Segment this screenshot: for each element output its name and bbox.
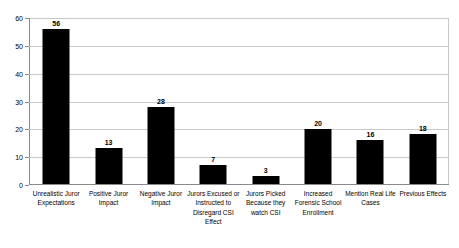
bar-slot: 56 — [30, 18, 82, 184]
bar-value-label: 16 — [367, 131, 375, 138]
bar-slot: 18 — [397, 18, 449, 184]
bar[interactable] — [357, 140, 384, 184]
x-axis-category-label: Positive Juror Impact — [82, 189, 134, 208]
x-axis-category-label: Negative Juror Impact — [135, 189, 187, 208]
bars-group: 56132873201618 — [30, 18, 449, 184]
bar-slot: 13 — [82, 18, 134, 184]
x-axis-category-label: Mention Real Life Cases — [344, 189, 396, 208]
x-axis-category-label: Jurors Excused or Instructed to Disregar… — [187, 189, 239, 227]
bar-value-label: 18 — [419, 125, 427, 132]
bar-slot: 7 — [187, 18, 239, 184]
bar-slot: 3 — [240, 18, 292, 184]
bar[interactable] — [147, 107, 174, 184]
x-axis-category-label: Unrealistic Juror Expectations — [30, 189, 82, 208]
x-axis-category-labels: Unrealistic Juror ExpectationsPositive J… — [30, 189, 450, 247]
y-axis-tick-label: 30 — [15, 98, 23, 105]
y-axis-tick-mark — [25, 129, 29, 130]
bar[interactable] — [43, 29, 70, 184]
x-axis-category-label: Previous Effects — [397, 189, 449, 198]
y-axis-tick-mark — [25, 74, 29, 75]
bar[interactable] — [305, 129, 332, 184]
bar-value-label: 56 — [52, 20, 60, 27]
bar[interactable] — [95, 148, 122, 184]
y-axis-tick-label: 40 — [15, 70, 23, 77]
bar-slot: 16 — [344, 18, 396, 184]
y-axis-tick-label: 60 — [15, 15, 23, 22]
bar-value-label: 20 — [314, 120, 322, 127]
y-axis-tick-mark — [25, 157, 29, 158]
bar-chart: 0102030405060 56132873201618 Unrealistic… — [0, 0, 459, 248]
bar[interactable] — [200, 165, 227, 184]
bar[interactable] — [252, 176, 279, 184]
bar-slot: 20 — [292, 18, 344, 184]
bar-value-label: 3 — [264, 167, 268, 174]
y-axis-tick-label: 20 — [15, 126, 23, 133]
bar-slot: 28 — [135, 18, 187, 184]
y-axis-tick-label: 50 — [15, 42, 23, 49]
y-axis-tick-label: 0 — [19, 182, 23, 189]
y-axis-tick-mark — [25, 46, 29, 47]
x-axis-line — [29, 184, 449, 185]
bar-value-label: 28 — [157, 98, 165, 105]
bar-value-label: 7 — [211, 156, 215, 163]
bar[interactable] — [409, 134, 436, 184]
plot-frame: 0102030405060 56132873201618 — [29, 18, 449, 185]
bar-value-label: 13 — [105, 139, 113, 146]
x-axis-category-label: Jurors Picked Because they watch CSI — [240, 189, 292, 217]
y-axis-tick-mark — [25, 185, 29, 186]
y-axis-tick-label: 10 — [15, 154, 23, 161]
x-axis-category-label: Increased Forensic School Enrollment — [292, 189, 344, 217]
y-axis-tick-mark — [25, 18, 29, 19]
y-axis-tick-mark — [25, 102, 29, 103]
